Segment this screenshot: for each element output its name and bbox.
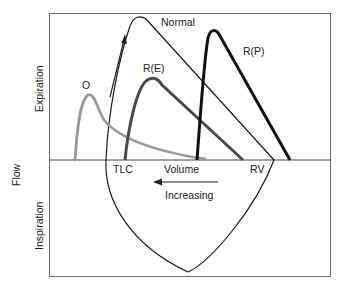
volume-label: Volume <box>164 163 199 175</box>
restrictive-extraparenchymal-curve <box>125 78 243 160</box>
expiration-direction-arrow <box>110 40 124 97</box>
increasing-label: Increasing <box>165 189 214 201</box>
inspiration-label: Inspiration <box>33 201 45 250</box>
curve-label-re: R(E) <box>143 62 165 74</box>
curve-label-o: O <box>82 79 90 91</box>
tlc-label: TLC <box>113 163 133 175</box>
expiration-label: Expiration <box>33 65 45 112</box>
obstructive-curve <box>75 95 205 160</box>
rv-label: RV <box>250 163 264 175</box>
curve-label-rp: R(P) <box>243 45 265 57</box>
plot-frame <box>50 14 331 277</box>
arrowhead-left-icon <box>153 179 162 186</box>
curve-label-normal: Normal <box>161 16 195 28</box>
flow-volume-diagram: Normal O R(E) R(P) TLC Volume RV Increas… <box>0 0 341 288</box>
flow-label: Flow <box>10 163 22 186</box>
